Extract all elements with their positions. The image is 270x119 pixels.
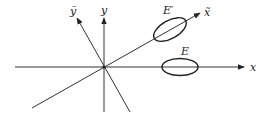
origin-point: [102, 65, 105, 68]
ellipse-e-prime-label: E′: [162, 4, 174, 17]
x-tilde-axis-label: x̃: [204, 6, 211, 19]
coordinate-diagram: x y ỹ x̃ E E′: [0, 0, 270, 119]
y-tilde-axis-label: ỹ: [69, 5, 77, 18]
x-tilde-axis: [32, 13, 200, 108]
y-axis-label: y: [100, 4, 108, 17]
x-axis-label: x: [250, 61, 257, 74]
diagram-svg: x y ỹ x̃ E E′: [0, 0, 270, 119]
ellipse-e-label: E: [180, 45, 189, 58]
